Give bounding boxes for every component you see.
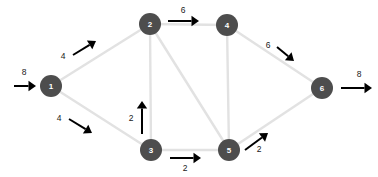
- edge-5-6: [229, 88, 322, 150]
- flow-source-into-1-head: [29, 81, 37, 91]
- node-4[interactable]: 4: [216, 14, 238, 36]
- edge-4-6: [227, 25, 322, 88]
- flow-1-to-3-value: 4: [57, 113, 62, 123]
- edge-2-4: [150, 24, 227, 25]
- flow-3-to-5: [170, 153, 201, 163]
- flow-1-to-3: [69, 119, 92, 134]
- flow-1-to-2: [73, 40, 96, 55]
- flow-3-to-5-head: [194, 153, 202, 163]
- flow-1-to-2-value: 4: [61, 51, 66, 61]
- flow-3-to-2-head: [137, 101, 147, 109]
- flow-1-to-2-shaft: [73, 45, 90, 55]
- flow-1-to-3-shaft: [69, 119, 86, 129]
- edge-1-2: [51, 24, 150, 86]
- node-5[interactable]: 5: [218, 139, 240, 161]
- flow-6-to-sink-value: 8: [357, 69, 362, 79]
- flow-3-to-2: [137, 101, 147, 134]
- flow-6-to-sink-head: [365, 83, 373, 93]
- flow-source-into-1: [14, 81, 36, 91]
- flow-2-to-4-value: 6: [181, 5, 186, 15]
- edge-2-5: [150, 24, 229, 150]
- flow-3-to-2-value: 2: [129, 113, 134, 123]
- node-5-label: 5: [227, 146, 232, 155]
- network-flow-diagram: 123456 844262628: [0, 0, 378, 177]
- edge-2-3: [150, 24, 151, 150]
- graph-svg-canvas: 123456 844262628: [0, 0, 378, 177]
- flow-source-into-1-value: 8: [22, 67, 27, 77]
- node-1[interactable]: 1: [40, 75, 62, 97]
- node-2-label: 2: [148, 20, 153, 29]
- node-6-label: 6: [320, 84, 325, 93]
- flow-3-to-5-value: 2: [183, 163, 188, 173]
- flow-5-to-6-value: 2: [257, 144, 262, 154]
- flow-4-to-6-shaft: [277, 47, 288, 56]
- edge-4-5: [227, 25, 229, 150]
- node-2[interactable]: 2: [139, 13, 161, 35]
- nodes-layer: 123456: [40, 13, 333, 161]
- node-3[interactable]: 3: [140, 139, 162, 161]
- flow-6-to-sink: [341, 83, 372, 93]
- node-3-label: 3: [149, 146, 154, 155]
- flow-5-to-6-head: [259, 133, 268, 142]
- flow-4-to-6-value: 6: [266, 40, 271, 50]
- node-1-label: 1: [49, 82, 54, 91]
- node-4-label: 4: [225, 21, 230, 30]
- node-6[interactable]: 6: [311, 77, 333, 99]
- edge-1-3: [51, 86, 151, 150]
